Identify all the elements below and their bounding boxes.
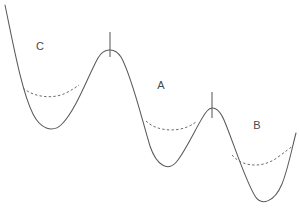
region-label-c: C (36, 40, 44, 52)
energy-landscape-figure: C A B (0, 0, 299, 214)
landscape-canvas: C A B (0, 0, 299, 214)
figure-background (0, 0, 299, 214)
region-label-a: A (157, 79, 165, 91)
region-label-b: B (253, 119, 261, 131)
